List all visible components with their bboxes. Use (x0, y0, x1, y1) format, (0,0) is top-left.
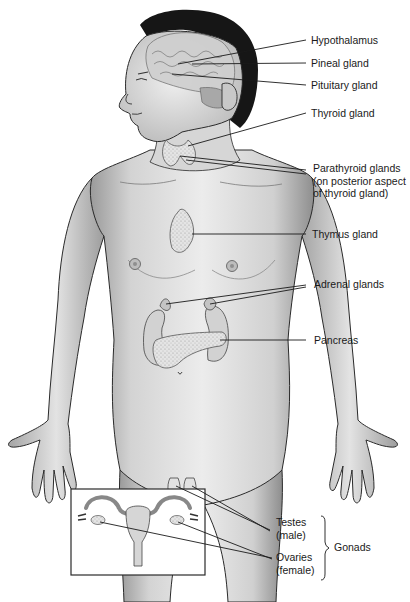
label-text: Parathyroid glands (313, 162, 401, 174)
label-text: Pineal gland (311, 57, 369, 69)
label-pineal-gland: Pineal gland (311, 57, 369, 70)
label-text: Thymus gland (312, 228, 378, 240)
label-text: (male) (276, 529, 306, 542)
label-thyroid-gland: Thyroid gland (311, 107, 375, 120)
label-testes: Testes (male) (276, 516, 306, 541)
female-inset (71, 489, 205, 575)
label-gonads: Gonads (334, 541, 371, 553)
label-pancreas: Pancreas (314, 334, 358, 347)
label-text: Ovaries (276, 551, 312, 563)
label-text: Thyroid gland (311, 107, 375, 119)
label-ovaries: Ovaries (female) (276, 551, 315, 576)
label-text: Adrenal glands (314, 278, 384, 290)
label-parathyroid-glands: Parathyroid glands (on posterior aspect … (313, 162, 406, 200)
label-text: Testes (276, 516, 306, 528)
label-text: Pancreas (314, 334, 358, 346)
label-hypothalamus: Hypothalamus (311, 34, 378, 47)
label-text: (female) (276, 564, 315, 577)
label-adrenal-glands: Adrenal glands (314, 278, 384, 291)
label-text: of thyroid gland) (313, 187, 406, 200)
label-text: (on posterior aspect (313, 175, 406, 188)
left-arm (9, 178, 104, 503)
label-thymus-gland: Thymus gland (312, 228, 378, 241)
group-label-text: Gonads (334, 541, 371, 553)
label-pituitary-gland: Pituitary gland (311, 79, 378, 92)
label-text: Pituitary gland (311, 79, 378, 91)
label-text: Hypothalamus (311, 34, 378, 46)
torso (90, 150, 313, 505)
